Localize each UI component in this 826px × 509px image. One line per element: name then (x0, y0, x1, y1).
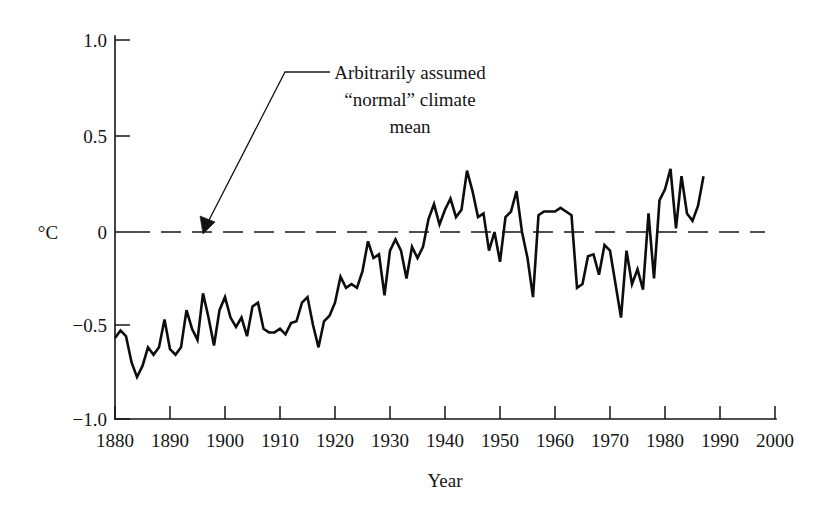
annotation-line-1: Arbitrarily assumed (334, 62, 486, 83)
annotation-line-2: “normal” climate (344, 89, 475, 110)
y-tick-label-3: 0 (98, 222, 108, 243)
x-tick-label-1970: 1970 (591, 430, 629, 451)
y-axis-ticks (115, 40, 130, 419)
temperature-anomaly-line (115, 169, 704, 377)
x-tick-label-1930: 1930 (371, 430, 409, 451)
y-tick-label-4: −0.5 (73, 315, 107, 336)
y-axis-unit-label: °C (38, 222, 58, 243)
x-tick-label-2000: 2000 (756, 430, 794, 451)
y-tick-label-5: −1.0 (73, 409, 107, 430)
y-tick-label-1: 1.0 (83, 30, 107, 51)
y-tick-label-2: 0.5 (83, 126, 107, 147)
x-axis-ticks (115, 406, 775, 419)
x-tick-label-1890: 1890 (151, 430, 189, 451)
x-tick-label-1880: 1880 (96, 430, 134, 451)
x-axis-title: Year (427, 470, 463, 491)
annotation-text-block: Arbitrarily assumed “normal” climate mea… (334, 62, 486, 137)
x-tick-label-1940: 1940 (426, 430, 464, 451)
x-tick-label-1990: 1990 (701, 430, 739, 451)
y-axis-tick-labels: 1.0 0.5 0 −0.5 −1.0 (73, 30, 107, 430)
x-axis-tick-labels: 1880 1890 1900 1910 1920 1930 1940 1950 … (96, 430, 794, 451)
x-tick-label-1920: 1920 (316, 430, 354, 451)
chart-figure: 1.0 0.5 0 −0.5 −1.0 °C 1880 189 (0, 0, 826, 509)
chart-canvas: 1.0 0.5 0 −0.5 −1.0 °C 1880 189 (0, 0, 826, 509)
annotation-line-3: mean (389, 116, 431, 137)
x-tick-label-1910: 1910 (261, 430, 299, 451)
x-tick-label-1980: 1980 (646, 430, 684, 451)
annotation-leader (200, 72, 330, 234)
x-tick-label-1960: 1960 (536, 430, 574, 451)
x-tick-label-1900: 1900 (206, 430, 244, 451)
annotation-leader-line (207, 72, 330, 224)
x-tick-label-1950: 1950 (481, 430, 519, 451)
